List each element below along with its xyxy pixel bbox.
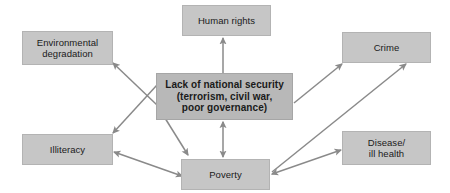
node-environmental-degradation-label: Environmental degradation: [23, 37, 112, 59]
diagram-canvas: Human rights Environmental degradation C…: [0, 0, 450, 193]
node-security-line-3: poor governance): [182, 102, 267, 113]
arrow-poverty-to-illiteracy: [114, 152, 182, 176]
arrow-security-to-crime: [294, 64, 342, 103]
node-disease-line-1: Disease/: [368, 137, 405, 148]
node-poverty: Poverty: [181, 159, 270, 190]
node-disease-line-2: ill health: [369, 148, 404, 159]
node-disease-ill-health: Disease/ ill health: [342, 131, 431, 165]
node-disease-ill-health-label: Disease/ ill health: [343, 137, 430, 159]
arrow-security-to-environmental-degradation: [113, 63, 157, 105]
node-poverty-label: Poverty: [182, 169, 269, 180]
node-environmental-degradation: Environmental degradation: [22, 31, 113, 65]
node-illiteracy-label: Illiteracy: [23, 144, 112, 155]
node-human-rights: Human rights: [182, 5, 271, 36]
arrow-poverty-to-disease: [272, 150, 341, 174]
node-lack-of-national-security-label: Lack of national security (terrorism, ci…: [157, 79, 292, 114]
node-security-line-1: Lack of national security: [165, 79, 284, 90]
node-human-rights-label: Human rights: [183, 15, 270, 26]
arrow-security-to-illiteracy: [113, 85, 157, 133]
node-crime-label: Crime: [343, 42, 430, 53]
node-illiteracy: Illiteracy: [22, 134, 113, 165]
node-crime: Crime: [342, 32, 431, 63]
node-lack-of-national-security: Lack of national security (terrorism, ci…: [156, 73, 293, 120]
node-security-line-2: (terrorism, civil war,: [177, 91, 273, 102]
